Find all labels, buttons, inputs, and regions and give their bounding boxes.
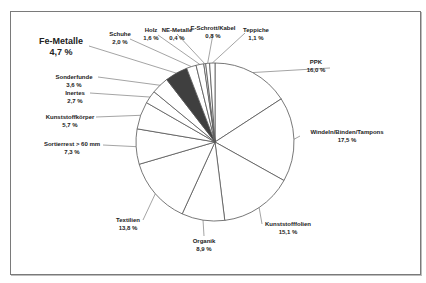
slice-label-name: Kunststofffolien [265,220,311,228]
slice-label-name: Sonderfunde [56,73,93,81]
slice-label: Textilien13,8 % [116,216,140,232]
slice-label-value: 0,4 % [162,34,193,42]
leader-line [294,136,300,139]
leader-line [98,77,160,85]
slice-label-name: Sortierrest > 60 mm [44,140,100,148]
leader-line [130,39,191,67]
leader-line [96,115,141,117]
slice-label-name: Fe-Metalle [39,36,83,47]
slice-label-value: 1,6 % [143,34,158,42]
slice-label-name: Kunststoffkörper [46,113,95,121]
slice-label-value: 2,0 % [109,38,131,46]
slice-label-name: Schuhe [109,30,131,38]
slice-label-name: PPK [307,58,326,66]
slice-label-value: 7,3 % [44,148,100,156]
slice-label-value: 13,8 % [116,224,140,232]
leader-line [203,220,204,236]
slice-label: Teppiche1,1 % [243,26,269,42]
slice-label-name: NE-Metalle [162,26,193,34]
leader-line [89,46,176,73]
slice-label: E-Schrott/Kabel0,8 % [190,24,235,40]
slice-label-name: Inertes [65,89,85,97]
leader-line [103,145,136,147]
slice-label-value: 17,5 % [310,136,383,144]
slice-label-value: 1,1 % [243,34,269,42]
slice-label-name: Organik [193,237,216,245]
leader-line [259,208,262,224]
leader-line [143,194,155,220]
slice-label: Inertes2,7 % [65,89,85,105]
slice-label-value: 0,8 % [190,32,235,40]
slice-label: PPK16,0 % [307,58,326,74]
slice-label-value: 4,7 % [39,47,83,58]
slice-label-value: 5,7 % [46,121,95,129]
slice-label-name: E-Schrott/Kabel [190,24,235,32]
slice-label: Sonderfunde3,6 % [56,73,93,89]
slice-label-name: Teppiche [243,26,269,34]
slice-label: Fe-Metalle4,7 % [39,36,83,58]
slice-label: Organik8,9 % [193,237,216,253]
slice-label-value: 2,7 % [65,97,85,105]
slice-label: Kunststoffkörper5,7 % [46,113,95,129]
slice-label: Holz1,6 % [143,26,158,42]
slice-label-value: 16,0 % [307,66,326,74]
slice-label: Kunststofffolien15,1 % [265,220,311,236]
slice-label-name: Windeln/Binden/Tampons [310,128,383,136]
slice-label: Schuhe2,0 % [109,30,131,46]
slice-label: Sortierrest > 60 mm7,3 % [44,140,100,156]
leader-line [90,93,150,97]
slice-label-value: 8,9 % [193,245,216,253]
slice-label-name: Holz [143,26,158,34]
slice-label-value: 15,1 % [265,228,311,236]
slice-label-name: Textilien [116,216,140,224]
slice-label-value: 3,6 % [56,81,93,89]
slice-label: Windeln/Binden/Tampons17,5 % [310,128,383,144]
slice-label: NE-Metalle0,4 % [162,26,193,42]
